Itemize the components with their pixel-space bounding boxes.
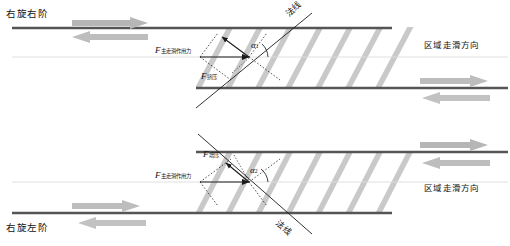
panel-top-force-secondary-label: F挤压 [201, 72, 217, 81]
force-main-subscript: 主走滑作用力 [161, 173, 191, 179]
angle-arc-bottom [261, 169, 268, 182]
panel-top [12, 13, 508, 108]
angle-arc-top [262, 44, 268, 57]
diagram-svg [0, 0, 510, 246]
echelon-bands-bottom [196, 148, 412, 218]
panel-bottom-force-secondary-label: F增压 [203, 150, 219, 159]
panel-bottom-angle-label: α2 [250, 166, 258, 175]
force-secondary-vector-bottom [226, 163, 249, 182]
panel-bottom-region-label: 区域走滑方向 [424, 184, 480, 193]
panel-top-corner-label: 右旋右阶 [6, 9, 48, 19]
force-secondary-subscript: 挤压 [207, 74, 217, 80]
shear-arrow-bottom-lower-left [78, 217, 146, 229]
figure-canvas: 右旋右阶 区域走滑方向 法线 F主走滑作用力 F挤压 α1 右旋左阶 区域走滑方… [0, 0, 510, 246]
panel-top-angle-label: α1 [251, 41, 259, 50]
force-secondary-subscript: 增压 [209, 152, 219, 158]
shear-arrow-bottom-upper-left [422, 157, 490, 169]
panel-top-force-main-label: F主走滑作用力 [155, 46, 191, 55]
angle-subscript: 1 [256, 43, 259, 49]
shear-arrow-top-lower-right [420, 75, 488, 87]
panel-top-region-label: 区域走滑方向 [424, 41, 480, 50]
angle-subscript: 2 [255, 168, 258, 174]
shear-arrow-bottom-lower-right [72, 200, 140, 212]
panel-bottom-corner-label: 右旋左阶 [6, 223, 48, 233]
force-secondary-vector-top [222, 37, 249, 57]
panel-bottom-force-main-label: F主走滑作用力 [155, 171, 191, 180]
shear-arrow-top-left [72, 31, 148, 43]
shear-arrow-top-lower-left [422, 92, 490, 104]
shear-arrow-bottom-upper-right [420, 139, 488, 151]
force-main-subscript: 主走滑作用力 [161, 48, 191, 54]
